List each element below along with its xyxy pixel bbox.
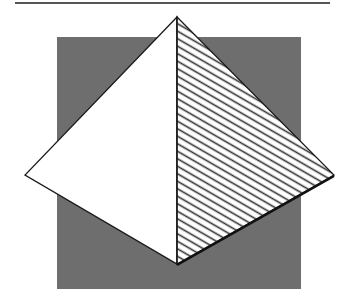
diagram-figure	[0, 0, 348, 301]
